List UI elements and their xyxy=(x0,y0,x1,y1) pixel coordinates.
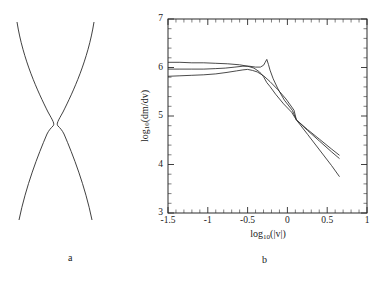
y-tick-label-0: 3 xyxy=(154,208,163,218)
x-tick-label-5: 1 xyxy=(365,216,370,226)
y-axis-title-subscript: 10 xyxy=(143,122,151,129)
y-axis-title: log10(dm/dv) xyxy=(139,90,152,142)
panel-a-caption: a xyxy=(68,252,72,263)
y-tick-label-1: 4 xyxy=(154,160,163,170)
axis-frame xyxy=(168,19,367,213)
panel-b-canvas xyxy=(0,0,380,250)
y-minor-ticks xyxy=(168,29,367,204)
x-axis-title: log10(|v|) xyxy=(250,228,285,241)
figure-container: a xyxy=(0,0,380,285)
x-major-ticks xyxy=(168,19,367,213)
x-axis-title-subscript: 10 xyxy=(263,233,270,241)
y-tick-label-4: 7 xyxy=(154,14,163,24)
x-tick-label-1: -1 xyxy=(204,216,212,226)
x-tick-label-4: 0.5 xyxy=(321,216,333,226)
x-axis-title-prefix: log xyxy=(250,228,263,239)
panel-b-caption: b xyxy=(262,254,267,265)
y-axis-title-suffix: (dm/dv) xyxy=(139,90,150,122)
y-tick-label-3: 6 xyxy=(154,63,163,73)
x-tick-label-3: 0 xyxy=(285,216,290,226)
x-tick-label-2: -0.5 xyxy=(240,216,255,226)
y-major-ticks xyxy=(168,19,367,213)
series-curve-2 xyxy=(168,59,340,158)
y-axis-title-prefix: log xyxy=(139,129,150,142)
y-tick-label-2: 5 xyxy=(154,111,163,121)
x-axis-title-suffix: (|v|) xyxy=(270,228,286,239)
panel-b: -1.5 -1 -0.5 0 0.5 1 3 4 5 6 7 log10(|v|… xyxy=(0,0,380,250)
series-curve-1 xyxy=(168,62,340,176)
data-series-group xyxy=(168,59,340,176)
x-minor-ticks xyxy=(176,19,359,213)
